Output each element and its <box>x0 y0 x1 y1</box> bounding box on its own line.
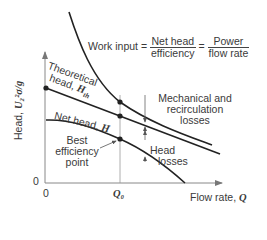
mechanical-recirculation-losses-label: Mechanical and recirculation losses <box>150 93 240 126</box>
theoretical-head-q0-dot <box>117 113 122 118</box>
mechanical-label-line3: losses <box>150 115 240 126</box>
y-axis-label: Head, U₂²σ/g <box>12 81 24 140</box>
work-input-q0-dot <box>117 99 122 104</box>
work-input-equation: Work input = Net head efficiency = Power… <box>88 36 249 59</box>
y-origin-tick: 0 <box>33 176 39 187</box>
best-efficiency-point-dot <box>117 136 122 141</box>
theoretical-head-subscript: th <box>82 91 90 101</box>
head-losses-label: Head losses <box>150 145 188 167</box>
x-axis-symbol: Q <box>239 192 247 203</box>
fraction1-denominator: efficiency <box>150 48 196 59</box>
fraction2-denominator: flow rate <box>208 48 250 59</box>
x-origin-tick: 0 <box>43 188 49 199</box>
fraction-net-head-efficiency: Net head efficiency <box>150 36 196 59</box>
q0-tick: Q₀ <box>113 188 124 199</box>
bep-label-line3: point <box>52 157 102 168</box>
equation-equals: = <box>198 40 204 52</box>
bep-pointer-arrow <box>100 141 116 148</box>
equation-lhs: Work input = <box>88 40 147 52</box>
x-axis-label: Flow rate, Q <box>190 192 247 203</box>
fraction-power-flow-rate: Power flow rate <box>208 36 250 59</box>
y-axis-expression: U₂²σ/g <box>13 81 24 109</box>
x-axis-label-text: Flow rate, <box>190 191 236 203</box>
y-axis-label-text: Head, <box>12 112 24 140</box>
head-losses-label-line2: losses <box>150 156 188 167</box>
best-efficiency-point-label: Best efficiency point <box>52 135 102 168</box>
